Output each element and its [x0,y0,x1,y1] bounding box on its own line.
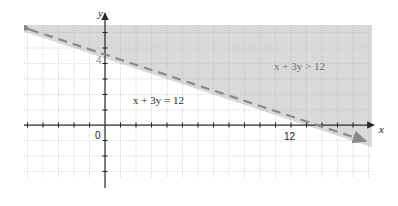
x-intercept-label: 12 [284,131,296,142]
y-axis-label: y [97,7,103,19]
inequality-graph-figure: y x 0 12 4 x + 3y = 12 x + 3y > 12 [0,0,398,206]
y-intercept-label: 4 [96,55,102,66]
origin-label: 0 [95,130,101,141]
coordinate-plane-svg: y x 0 12 4 x + 3y = 12 x + 3y > 12 [0,0,398,206]
x-axis-label: x [378,123,384,135]
equation-annotation: x + 3y = 12 [133,94,184,106]
inequality-annotation: x + 3y > 12 [274,60,325,72]
